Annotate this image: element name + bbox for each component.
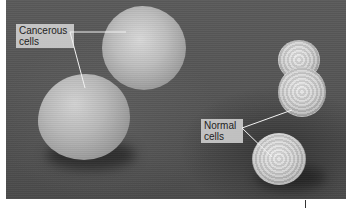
normal-cell-middle bbox=[278, 67, 326, 117]
cancerous-label-line1: Cancerous bbox=[19, 25, 71, 36]
normal-cell-bottom bbox=[252, 133, 306, 185]
normal-cells-label: Normal cells bbox=[201, 119, 243, 143]
scale-tick bbox=[305, 200, 306, 208]
normal-label-line1: Normal bbox=[204, 120, 240, 131]
cancerous-cell-lower bbox=[38, 74, 130, 160]
normal-label-line2: cells bbox=[204, 131, 240, 142]
cancerous-cells-label: Cancerous cells bbox=[16, 24, 74, 48]
cancerous-label-line2: cells bbox=[19, 36, 71, 47]
cancerous-cell-upper bbox=[102, 6, 186, 90]
